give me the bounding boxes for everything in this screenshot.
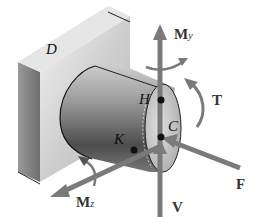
v-force-arrow xyxy=(153,140,167,217)
point-h xyxy=(158,97,165,104)
label-f: F xyxy=(236,177,245,192)
t-torque-arrow xyxy=(184,78,203,127)
point-k xyxy=(131,147,138,154)
label-v: V xyxy=(172,200,183,215)
point-c xyxy=(158,134,165,141)
label-c: C xyxy=(168,119,178,134)
label-d: D xyxy=(46,42,57,57)
label-t: T xyxy=(212,93,222,108)
label-k: K xyxy=(114,132,124,147)
label-mz: Mz xyxy=(76,195,94,210)
diagram-canvas xyxy=(0,0,272,217)
label-my: My xyxy=(174,27,193,42)
label-h: H xyxy=(139,92,150,107)
